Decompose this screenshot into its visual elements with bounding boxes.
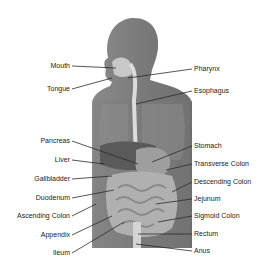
label-transverse-colon: Transverse Colon [194,160,249,168]
label-pharynx: Pharynx [194,65,220,73]
label-stomach: Stomach [194,142,222,150]
label-sigmoid-colon: Sigmoid Colon [194,212,240,220]
label-descending-colon: Descending Colon [194,178,251,186]
label-anus: Anus [194,247,210,255]
label-gallbladder: Gallbladder [34,175,70,183]
label-jejunum: Jejunum [194,195,220,203]
label-tongue: Tongue [47,85,70,93]
label-mouth: Mouth [51,62,70,70]
label-rectum: Rectum [194,230,218,238]
label-pancreas: Pancreas [40,137,70,145]
label-duodenum: Duodenum [36,194,70,202]
label-esophagus: Esophagus [194,87,229,95]
label-ileum: Ileum [53,249,70,257]
label-appendix: Appendix [41,231,70,239]
label-liver: Liver [55,156,70,164]
label-ascending-colon: Ascending Colon [17,212,70,220]
digestive-system-diagram: Mouth Tongue Pancreas Liver Gallbladder … [0,0,268,275]
